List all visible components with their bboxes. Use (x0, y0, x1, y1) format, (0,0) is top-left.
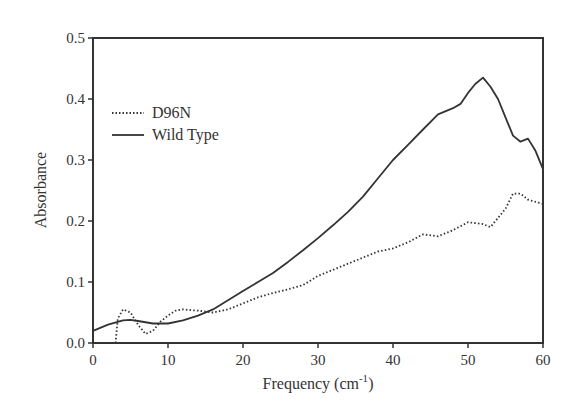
y-tick-label: 0.1 (66, 274, 85, 290)
y-tick-label: 0.4 (66, 91, 85, 107)
x-axis-title: Frequency (cm-1) (263, 372, 374, 393)
y-tick-label: 0.5 (66, 30, 85, 46)
x-tick-label: 50 (461, 352, 476, 368)
y-tick-label: 0.0 (66, 335, 85, 351)
y-tick-label: 0.2 (66, 213, 85, 229)
x-tick-label: 20 (236, 352, 251, 368)
y-tick-label: 0.3 (66, 152, 85, 168)
legend: D96N Wild Type (112, 104, 219, 144)
legend-label-d96n: D96N (152, 104, 192, 121)
x-tick-label: 30 (311, 352, 326, 368)
x-tick-label: 0 (89, 352, 97, 368)
x-tick-label: 40 (386, 352, 401, 368)
x-tick-label: 60 (536, 352, 551, 368)
y-axis-title: Absorbance (32, 152, 49, 228)
absorbance-chart: 01020304050600.00.10.20.30.40.5 D96N Wil… (0, 0, 581, 416)
x-tick-label: 10 (161, 352, 176, 368)
legend-label-wild-type: Wild Type (152, 126, 219, 144)
